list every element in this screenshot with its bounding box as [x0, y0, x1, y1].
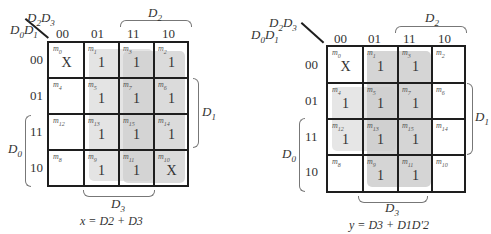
cell-m6: m6 — [432, 84, 467, 120]
grid-line — [328, 154, 464, 156]
row-header: 10 — [305, 164, 318, 180]
row-header: 11 — [305, 129, 318, 145]
brace-d1 — [467, 83, 473, 155]
row-header: 00 — [30, 52, 43, 68]
cell-m0: m0X — [328, 47, 363, 83]
col-header: 00 — [334, 31, 347, 47]
grid-line — [49, 77, 187, 79]
grid-line — [328, 118, 464, 120]
corner-diagonal — [301, 22, 325, 44]
grid-line — [328, 82, 464, 84]
cell-m4: m4 — [49, 79, 84, 114]
brace-label-d3: D3 — [111, 196, 125, 214]
cell-m0: m0X — [49, 43, 84, 78]
cell-m8: m8 — [49, 151, 84, 186]
row-header: 10 — [30, 160, 43, 176]
equation-x: x = D2 + D3 — [80, 214, 143, 229]
cell-m14: m14 — [432, 120, 467, 156]
brace-label-d2: D2 — [425, 10, 439, 28]
row-header: 01 — [305, 93, 318, 109]
col-header: 11 — [403, 31, 416, 47]
kmap-grid: m0X m11 m31 m2 m41 m51 m71 m6 m121 m131 … — [326, 45, 466, 193]
cell-m8: m8 — [328, 156, 363, 192]
brace-label-d0: D0 — [8, 141, 22, 159]
brace-d1 — [193, 78, 199, 148]
brace-label-d3: D3 — [385, 200, 399, 218]
kmap-y: D2D3 D0D1 00 01 11 10 00 01 11 10 D2 D1 … — [245, 0, 491, 234]
grid-line — [49, 149, 187, 151]
cell-m2: m2 — [432, 47, 467, 83]
col-header: 10 — [162, 26, 175, 42]
row-header: 11 — [30, 124, 43, 140]
brace-label-d2: D2 — [148, 5, 162, 23]
grid-line — [49, 113, 187, 115]
kmap-x: D2D3 D0D1 00 01 11 10 00 01 11 10 D2 D1 … — [0, 0, 245, 234]
col-header: 11 — [127, 26, 140, 42]
col-header: 01 — [91, 26, 104, 42]
cell-m10: m10 — [432, 156, 467, 192]
cell-m12: m12 — [49, 115, 84, 150]
row-header: 01 — [30, 88, 43, 104]
kmap-grid: m0X m11 m31 m21 m4 m51 m71 m61 m12 m131 … — [47, 41, 189, 187]
brace-label-d1: D1 — [202, 104, 216, 122]
col-header: 01 — [368, 31, 381, 47]
row-vars-label: D0D1 — [251, 27, 279, 45]
col-header: 00 — [56, 26, 69, 42]
row-header: 00 — [305, 57, 318, 73]
equation-y: y = D3 + D1D'2 — [349, 218, 429, 233]
brace-label-d0: D0 — [282, 146, 296, 164]
brace-label-d1: D1 — [475, 109, 489, 127]
row-vars-label: D0D1 — [10, 22, 38, 40]
col-header: 10 — [438, 31, 451, 47]
